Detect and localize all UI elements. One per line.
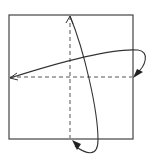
filled-arrowhead-right-icon <box>133 69 143 78</box>
origami-fold-diagram <box>0 0 152 163</box>
